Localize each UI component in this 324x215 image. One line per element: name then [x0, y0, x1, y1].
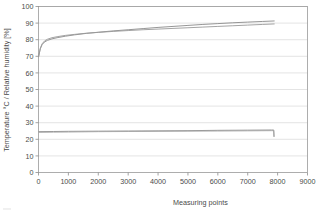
y-tick-label: 40 — [26, 102, 34, 111]
y-tick-label: 80 — [26, 35, 34, 44]
x-tick-label: 4000 — [150, 177, 166, 186]
x-tick-label: 6000 — [210, 177, 226, 186]
x-tick-label: 1000 — [60, 177, 76, 186]
x-tick-label: 7000 — [240, 177, 256, 186]
chart-container: 0100020003000400050006000700080009000 01… — [0, 0, 324, 215]
y-tick-label: 70 — [26, 52, 34, 61]
y-tick-label: 0 — [30, 168, 34, 177]
y-tick-label: 30 — [26, 118, 34, 127]
y-tick-label: 60 — [26, 69, 34, 78]
y-tick-label: 100 — [22, 2, 34, 11]
line-chart: 0100020003000400050006000700080009000 01… — [0, 0, 324, 215]
x-tick-label: 5000 — [180, 177, 196, 186]
y-tick-label: 20 — [26, 135, 34, 144]
x-tick-label: 3000 — [120, 177, 136, 186]
x-tick-label: 9000 — [300, 177, 316, 186]
x-tick-label: 2000 — [90, 177, 106, 186]
y-tick-label: 90 — [26, 19, 34, 28]
y-tick-label: 50 — [26, 85, 34, 94]
x-axis-title: Measuring points — [173, 198, 228, 207]
x-tick-label: 0 — [37, 177, 41, 186]
y-axis-title: Temperature °C / Relative humidity [%] — [2, 28, 11, 152]
x-tick-label: 8000 — [270, 177, 286, 186]
y-tick-label: 10 — [26, 152, 34, 161]
